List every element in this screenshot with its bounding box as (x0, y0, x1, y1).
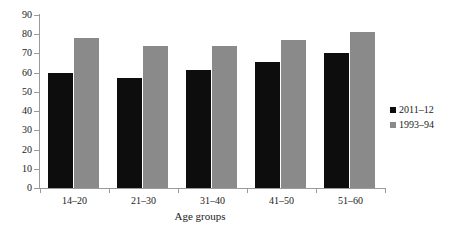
legend-item: 2011–12 (390, 102, 434, 117)
bar (117, 78, 142, 188)
y-axis-tick-label-wrap: 50 (0, 87, 32, 97)
legend-swatch-icon (390, 122, 396, 128)
y-axis-tick (34, 188, 39, 189)
bar (324, 53, 349, 188)
x-axis-tick (385, 188, 386, 193)
x-axis-tick-label: 14–20 (40, 195, 109, 206)
bar (186, 70, 211, 188)
y-axis-tick-label-wrap: 30 (0, 125, 32, 135)
bar (48, 73, 73, 188)
x-axis-tick-label: 51–60 (316, 195, 385, 206)
y-axis-tick (34, 15, 39, 16)
y-axis-tick (34, 150, 39, 151)
y-axis-tick (34, 53, 39, 54)
bar (281, 40, 306, 188)
y-axis-tick-label: 40 (2, 106, 32, 116)
y-axis-tick-label-wrap: 40 (0, 106, 32, 116)
bar (212, 46, 237, 188)
bar (350, 32, 375, 188)
x-axis-tick (316, 188, 317, 193)
y-axis-tick-label: 50 (2, 87, 32, 97)
y-axis-tick-label-wrap: 20 (0, 145, 32, 155)
x-axis-tick-label: 41–50 (247, 195, 316, 206)
y-axis-tick-label-wrap: 10 (0, 164, 32, 174)
x-axis-tick (178, 188, 179, 193)
bar-group (40, 15, 109, 188)
y-axis-tick-label: 30 (2, 125, 32, 135)
y-axis-tick-label: 10 (2, 164, 32, 174)
y-axis-tick (34, 73, 39, 74)
bar-group (316, 15, 385, 188)
y-axis-tick-label-wrap: 0 (0, 183, 32, 193)
y-axis-tick-label: 0 (2, 183, 32, 193)
bar (143, 46, 168, 188)
x-axis-tick (40, 188, 41, 193)
legend-label: 1993–94 (399, 120, 434, 130)
x-axis-tick-label: 21–30 (109, 195, 178, 206)
bar-group (109, 15, 178, 188)
x-axis-title: Age groups (0, 210, 400, 222)
y-axis-tick-label-wrap: 60 (0, 68, 32, 78)
y-axis-tick-label: 60 (2, 68, 32, 78)
bar (255, 62, 280, 188)
y-axis-tick-label-wrap: 90 (0, 10, 32, 20)
y-axis-tick (34, 111, 39, 112)
y-axis-tick (34, 130, 39, 131)
x-axis-tick-label: 31–40 (178, 195, 247, 206)
y-axis-tick-label: 80 (2, 29, 32, 39)
x-axis-tick (109, 188, 110, 193)
y-axis-tick-label: 90 (2, 10, 32, 20)
y-axis-tick-label: 20 (2, 145, 32, 155)
bar (74, 38, 99, 188)
legend-label: 2011–12 (399, 105, 434, 115)
legend-swatch-icon (390, 107, 396, 113)
x-axis-line (39, 188, 386, 189)
y-axis-tick-label-wrap: 70 (0, 48, 32, 58)
chart-legend: 2011–121993–94 (390, 102, 434, 132)
bar-chart: 0102030405060708090 14–2021–3031–4041–50… (0, 0, 454, 237)
bar-group (247, 15, 316, 188)
x-axis-tick (247, 188, 248, 193)
y-axis-tick (34, 92, 39, 93)
y-axis-tick (34, 34, 39, 35)
bar-group (178, 15, 247, 188)
y-axis-tick-label: 70 (2, 48, 32, 58)
y-axis-tick-label-wrap: 80 (0, 29, 32, 39)
legend-item: 1993–94 (390, 117, 434, 132)
y-axis-tick (34, 169, 39, 170)
